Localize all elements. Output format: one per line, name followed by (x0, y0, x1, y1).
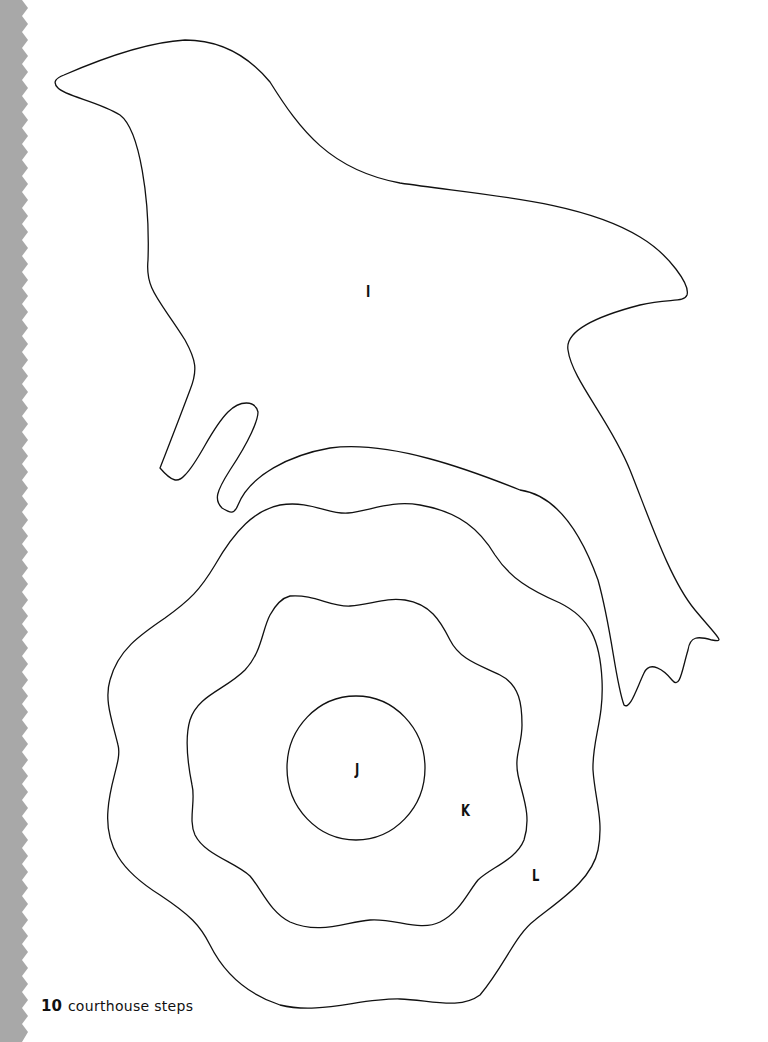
bird-outline (55, 40, 719, 706)
flower-outer-outline (108, 504, 603, 1008)
applique-pattern (0, 0, 768, 1042)
page-number: 10 (41, 997, 62, 1015)
piece-label-bird: I (366, 284, 370, 300)
book-title: courthouse steps (68, 998, 193, 1014)
piece-label-flower-outer: L (532, 868, 539, 884)
piece-label-flower-center: J (355, 762, 359, 778)
page-footer: 10 courthouse steps (41, 997, 193, 1015)
piece-label-flower-middle: K (461, 803, 470, 819)
